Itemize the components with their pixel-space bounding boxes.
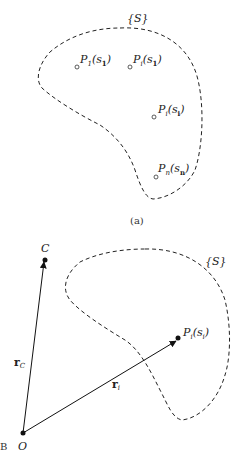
point-p1: P1(s1) bbox=[75, 53, 111, 69]
vector-ri bbox=[23, 341, 176, 433]
point-marker bbox=[128, 65, 132, 69]
target-label: Pi(si) bbox=[182, 326, 209, 341]
point-label: Pn(sn) bbox=[157, 162, 189, 177]
target-point bbox=[176, 336, 181, 341]
point-pi: Pi(si) bbox=[152, 103, 185, 119]
point-pi-1: Pi(s1) bbox=[128, 53, 162, 69]
panel-a: {S} P1(s1) Pi(s1) Pi(si) Pn(sn) (a) bbox=[38, 12, 202, 226]
point-marker bbox=[154, 175, 158, 179]
vector-rc-label: rC bbox=[14, 356, 26, 370]
vector-ri-label: ri bbox=[112, 378, 120, 392]
diagram-canvas: {S} P1(s1) Pi(s1) Pi(si) Pn(sn) (a) bbox=[0, 0, 244, 454]
caption-a: (a) bbox=[130, 215, 144, 226]
point-label: P1(s1) bbox=[79, 53, 111, 68]
origin-label: O bbox=[18, 440, 27, 453]
point-pn: Pn(sn) bbox=[154, 162, 189, 179]
set-label-b: {S} bbox=[205, 255, 227, 268]
center-label: C bbox=[41, 242, 50, 255]
origin-point bbox=[21, 431, 26, 436]
point-label: Pi(si) bbox=[157, 103, 185, 118]
set-label-a: {S} bbox=[127, 12, 149, 25]
vector-rc bbox=[23, 262, 44, 433]
panel-b: {S} O C B Pi(si) rC ri bbox=[0, 242, 230, 453]
side-mark: B bbox=[0, 441, 7, 452]
point-marker bbox=[152, 115, 156, 119]
point-label: Pi(s1) bbox=[132, 53, 162, 68]
center-point bbox=[43, 258, 48, 263]
point-marker bbox=[75, 65, 79, 69]
